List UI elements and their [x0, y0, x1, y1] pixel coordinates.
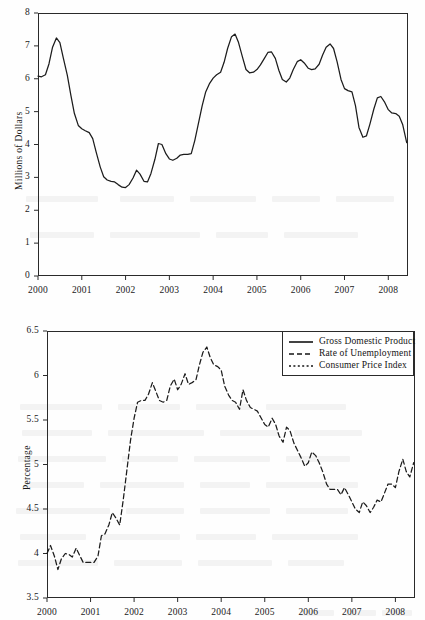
legend-label-gdp: Gross Domestic Product	[319, 336, 415, 347]
x-tick-label: 2001	[65, 285, 99, 295]
y-tick-label: 7	[0, 40, 30, 50]
x-tick-label: 2005	[240, 285, 274, 295]
x-tick-label: 2008	[378, 607, 412, 617]
x-tick-label: 2003	[152, 285, 186, 295]
x-tick-label: 2002	[109, 285, 143, 295]
x-tick-label: 2004	[204, 607, 238, 617]
series-line	[47, 347, 414, 570]
legend-swatch-dotted-icon	[288, 361, 314, 371]
legend-swatch-dashed-icon	[288, 349, 314, 359]
chart-panel-top: Millions of Dollars 01234567820002001200…	[0, 0, 425, 305]
y-tick-label: 6	[0, 73, 30, 83]
x-tick-label: 2007	[328, 285, 362, 295]
y-tick-label: 4	[9, 548, 39, 558]
x-tick-label: 2008	[371, 285, 405, 295]
x-tick-label: 2000	[30, 607, 64, 617]
y-tick-label: 5	[9, 459, 39, 469]
y-tick-label: 4	[0, 139, 30, 149]
legend-swatch-solid-icon	[288, 337, 314, 347]
y-tick-label: 6	[9, 370, 39, 380]
y-tick-label: 3	[0, 171, 30, 181]
y-tick-label: 2	[0, 204, 30, 214]
y-tick-label: 1	[0, 237, 30, 247]
y-tick-label: 8	[0, 7, 30, 17]
y-tick-label: 3.5	[9, 592, 39, 602]
x-tick-label: 2002	[117, 607, 151, 617]
chart-panel-bottom: Percentage Gross Domestic Product Rate o…	[0, 310, 425, 620]
x-tick-label: 2004	[196, 285, 230, 295]
legend-label-unemployment: Rate of Unemployment	[319, 348, 411, 359]
y-tick-label: 5	[0, 106, 30, 116]
series-line	[38, 34, 407, 188]
legend-item-cpi[interactable]: Consumer Price Index	[288, 360, 407, 371]
y-tick-label: 4.5	[9, 503, 39, 513]
figure-page: Millions of Dollars 01234567820002001200…	[0, 0, 425, 620]
y-tick-label: 0	[0, 270, 30, 280]
x-tick-label: 2005	[248, 607, 282, 617]
x-tick-label: 2001	[74, 607, 108, 617]
legend-item-gdp[interactable]: Gross Domestic Product	[288, 336, 407, 347]
x-tick-label: 2000	[21, 285, 55, 295]
legend-item-unemployment[interactable]: Rate of Unemployment	[288, 348, 407, 359]
chart-legend[interactable]: Gross Domestic Product Rate of Unemploym…	[282, 331, 414, 376]
y-tick-label: 6.5	[9, 325, 39, 335]
x-tick-label: 2003	[161, 607, 195, 617]
x-tick-label: 2007	[335, 607, 369, 617]
legend-label-cpi: Consumer Price Index	[319, 360, 407, 371]
x-tick-label: 2006	[291, 607, 325, 617]
y-tick-label: 5.5	[9, 414, 39, 424]
plot-svg-top	[0, 0, 425, 305]
x-tick-label: 2006	[284, 285, 318, 295]
